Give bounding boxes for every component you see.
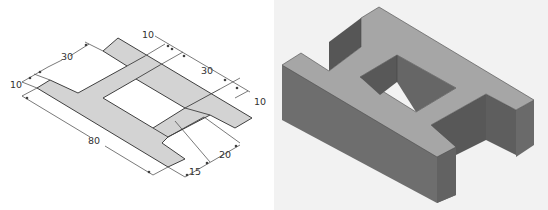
dim-label-10-left: 10 [10,79,22,90]
dim-label-20: 20 [219,149,231,160]
dim-label-80: 80 [88,135,100,146]
dim-label-30-left: 30 [61,51,73,62]
dimensioned-flat-pattern-view: 10 30 10 30 10 80 15 20 [0,0,274,210]
dim-label-15: 15 [189,166,201,177]
flat-pattern-drawing: 10 30 10 30 10 80 15 20 [0,0,274,210]
dim-label-30-right: 30 [201,65,213,76]
solid-block-render [274,0,548,210]
shaded-isometric-solid-view [274,0,548,210]
dim-label-10-top: 10 [142,29,154,40]
dim-label-10-right: 10 [254,96,266,107]
